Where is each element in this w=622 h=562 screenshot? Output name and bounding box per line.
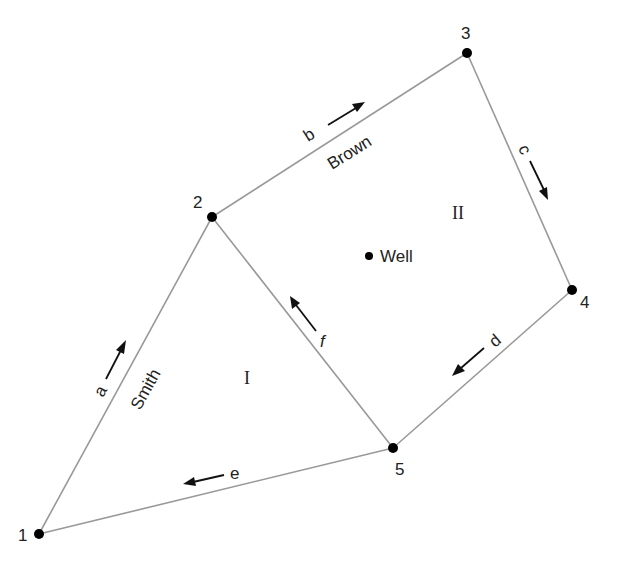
- edge-c-label: c: [514, 142, 535, 158]
- node-5-label: 5: [395, 460, 404, 479]
- edge-d-label: d: [485, 330, 504, 351]
- node-1-dot: [34, 529, 44, 539]
- edge-a-label: a: [90, 382, 111, 400]
- edge-c: [467, 53, 572, 290]
- node-3-dot: [462, 48, 472, 58]
- node-1-label: 1: [18, 526, 27, 545]
- edge-b: [212, 53, 467, 217]
- edge-f: [212, 217, 393, 448]
- edge-e-arrow-icon: [183, 475, 224, 486]
- node-4-dot: [567, 285, 577, 295]
- edge-a-name: Smith: [127, 366, 165, 413]
- node-2-label: 2: [193, 193, 202, 212]
- edge-b-label: b: [300, 124, 318, 145]
- edge-e-label: e: [230, 464, 239, 483]
- edge-b-name: Brown: [324, 132, 375, 174]
- edge-f-arrow-icon: [290, 296, 316, 331]
- node-2-dot: [207, 212, 217, 222]
- edge-c-arrow-icon: [530, 161, 548, 200]
- edge-a: [39, 217, 212, 534]
- well-dot: [365, 252, 373, 260]
- network-diagram: 1 2 3 4 5 Well I II a Smith b Brown c d …: [0, 0, 622, 562]
- region-II-label: II: [452, 203, 464, 223]
- region-I-label: I: [244, 368, 250, 388]
- edge-e: [39, 448, 393, 534]
- edge-a-arrow-icon: [106, 340, 126, 379]
- edge-d: [393, 290, 572, 448]
- node-3-label: 3: [461, 24, 470, 43]
- node-5-dot: [388, 443, 398, 453]
- well-label: Well: [380, 247, 413, 266]
- edge-f-label: f: [320, 332, 327, 351]
- node-4-label: 4: [580, 293, 589, 312]
